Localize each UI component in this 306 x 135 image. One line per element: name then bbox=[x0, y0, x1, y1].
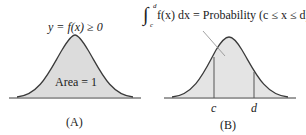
panel-b-graph bbox=[164, 31, 296, 98]
c-tick-label: c bbox=[211, 102, 216, 114]
curve-equation-label: y = f(x) ≥ 0 bbox=[48, 21, 103, 33]
integral-upper-limit: d bbox=[153, 3, 157, 10]
integral-lower-limit: c bbox=[150, 22, 153, 29]
panel-b-shaded-area bbox=[172, 37, 288, 97]
d-tick-label: d bbox=[251, 102, 257, 114]
integral-sign-icon: ∫ bbox=[143, 4, 148, 24]
panel-a-caption: (A) bbox=[66, 116, 83, 128]
panel-b-caption: (B) bbox=[220, 119, 236, 131]
area-label: Area = 1 bbox=[55, 76, 97, 88]
integral-probability-label: f(x) dx = Probability (c ≤ x ≤ d) bbox=[157, 9, 306, 21]
